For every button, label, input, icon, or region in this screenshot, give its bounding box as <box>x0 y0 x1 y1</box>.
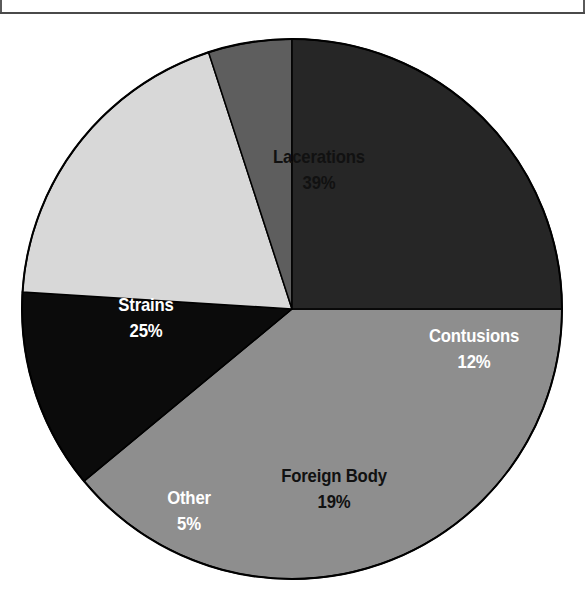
slice-label-foreign-body-name: Foreign Body <box>281 465 387 487</box>
slice-label-other-value: 5% <box>167 513 211 535</box>
slice-label-foreign-body: Foreign Body 19% <box>274 465 394 514</box>
slice-label-lacerations-value: 39% <box>273 172 365 194</box>
pie-chart: Lacerations 39% Contusions 12% Foreign B… <box>0 0 585 604</box>
slice-label-lacerations: Lacerations 39% <box>267 146 371 195</box>
slice-label-other-name: Other <box>167 487 211 509</box>
slice-label-contusions-name: Contusions <box>429 325 519 347</box>
slice-label-strains: Strains 25% <box>114 294 177 343</box>
slice-label-foreign-body-value: 19% <box>281 491 387 513</box>
page-root: Lacerations 39% Contusions 12% Foreign B… <box>0 0 585 604</box>
slice-label-other: Other 5% <box>164 487 214 536</box>
slice-label-contusions: Contusions 12% <box>423 325 526 374</box>
slice-label-strains-name: Strains <box>118 294 173 316</box>
slice-label-contusions-value: 12% <box>429 351 519 373</box>
slice-label-strains-value: 25% <box>118 320 173 342</box>
slice-label-lacerations-name: Lacerations <box>273 146 365 168</box>
